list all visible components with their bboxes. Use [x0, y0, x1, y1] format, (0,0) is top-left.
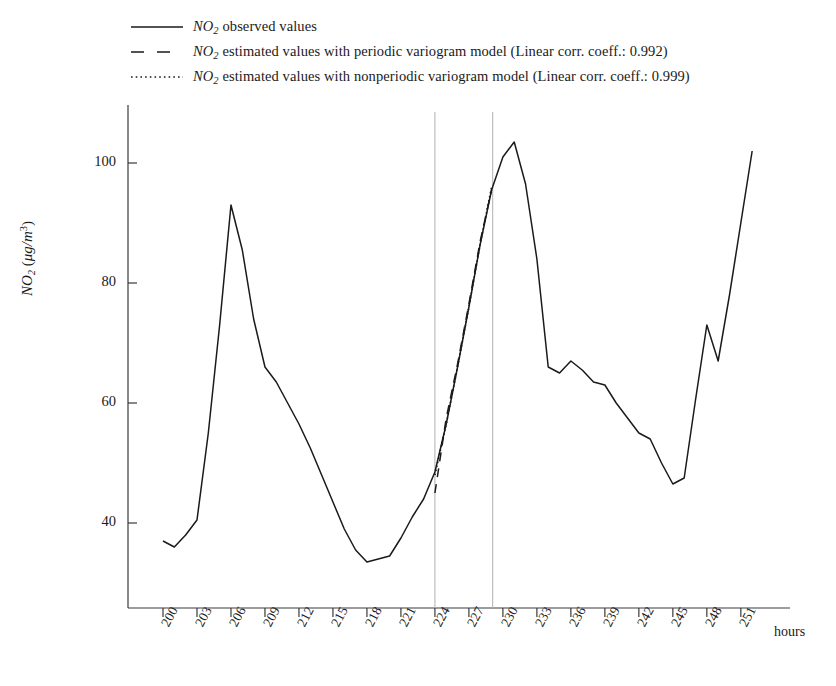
- estimation-window-markers: [435, 112, 493, 608]
- series-line-solid: [163, 142, 752, 562]
- data-series-group: [163, 142, 752, 562]
- series-line-dashed: [435, 190, 492, 493]
- plot-canvas: [0, 0, 836, 686]
- x-axis-ticks: [163, 608, 741, 617]
- chart-figure: NO2 observed values NO2 estimated values…: [0, 0, 836, 686]
- y-axis-ticks: [128, 163, 137, 523]
